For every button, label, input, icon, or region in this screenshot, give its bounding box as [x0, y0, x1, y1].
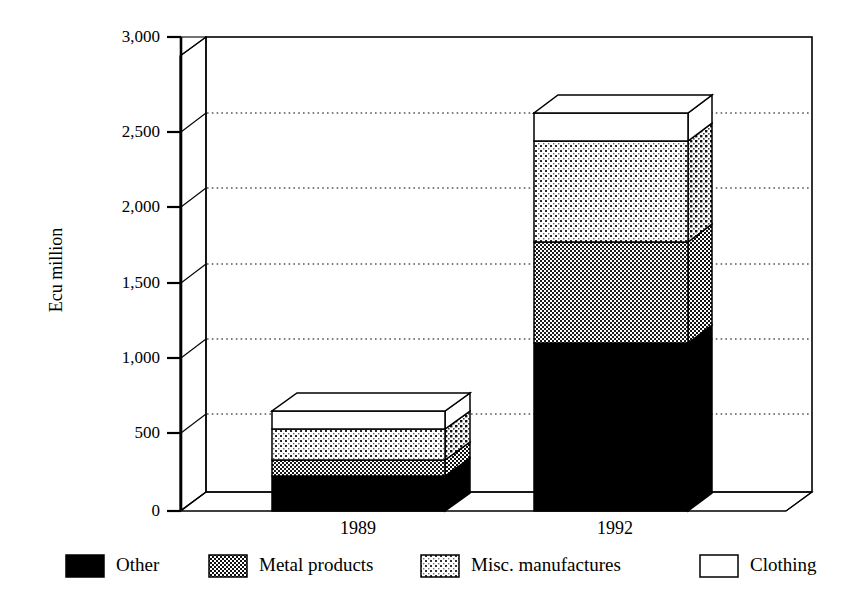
y-tick-3000: 3,000 — [122, 27, 206, 46]
y-tick-2000: 2,000 — [122, 188, 206, 216]
segment-side — [688, 224, 712, 343]
gridlines — [207, 113, 811, 414]
bar-segment-1989-clothing[interactable] — [272, 393, 470, 429]
y-tick-1000: 1,000 — [122, 339, 206, 367]
legend-item-other[interactable]: Other — [66, 554, 160, 577]
legend-label-misc-manufactures: Misc. manufactures — [471, 554, 621, 575]
segment-front — [272, 476, 445, 511]
solid-black-swatch — [66, 555, 104, 577]
light-checker-swatch — [421, 555, 459, 577]
y-tick-label-3000: 3,000 — [122, 27, 160, 46]
y-tick-0: 0 — [152, 492, 207, 520]
segment-side — [688, 123, 712, 242]
bar-group-1992[interactable]: 1992 — [534, 95, 712, 538]
legend-label-other: Other — [116, 554, 160, 575]
y-axis-title: Ecu million — [46, 228, 66, 313]
bar-segment-1992-clothing[interactable] — [534, 95, 712, 141]
segment-front — [534, 343, 688, 511]
legend-item-clothing[interactable]: Clothing — [700, 554, 817, 577]
chart-root: 3,000 2,500 2,000 1,500 1,000 — [0, 0, 859, 611]
x-tick-label-1989: 1989 — [340, 518, 376, 538]
legend-item-metal-products[interactable]: Metal products — [209, 554, 374, 577]
chart-legend: Other Metal products Misc. manufactures … — [66, 554, 817, 577]
top-left-depth-edge — [180, 37, 206, 56]
segment-front — [272, 429, 445, 460]
y-tick-label-2000: 2,000 — [122, 197, 160, 216]
y-tick-label-1000: 1,000 — [122, 348, 160, 367]
segment-front — [272, 460, 445, 476]
legend-label-clothing: Clothing — [750, 554, 817, 575]
y-tick-label-2500: 2,500 — [122, 122, 160, 141]
y-tick-label-500: 500 — [135, 423, 161, 442]
segment-side — [688, 325, 712, 511]
y-tick-label-1500: 1,500 — [122, 273, 160, 292]
segment-front — [534, 141, 688, 242]
y-tick-2500: 2,500 — [122, 113, 206, 141]
dark-checker-swatch — [209, 555, 247, 577]
stacked-column-chart: 3,000 2,500 2,000 1,500 1,000 — [0, 0, 859, 611]
x-tick-label-1992: 1992 — [597, 518, 633, 538]
y-tick-label-0: 0 — [152, 501, 161, 520]
bar-segment-1992-other[interactable] — [534, 325, 712, 511]
bar-group-1989[interactable]: 1989 — [272, 393, 470, 538]
legend-item-misc-manufactures[interactable]: Misc. manufactures — [421, 554, 621, 577]
legend-label-metal-products: Metal products — [259, 554, 374, 575]
segment-top-cap — [272, 393, 470, 411]
segment-front — [534, 242, 688, 343]
y-tick-1500: 1,500 — [122, 264, 206, 292]
segment-front — [272, 411, 445, 429]
segment-top-cap — [534, 95, 712, 113]
bottom-right-depth-edge — [786, 492, 812, 511]
y-tick-500: 500 — [135, 414, 207, 442]
white-swatch — [700, 555, 738, 577]
segment-front — [534, 113, 688, 141]
